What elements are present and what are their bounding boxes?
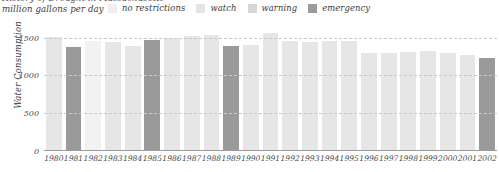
x-axis-tick-label: 1980 xyxy=(44,154,64,163)
x-axis-tick-label: 1989 xyxy=(221,154,241,163)
x-axis-tick-label: 1988 xyxy=(202,154,222,163)
legend-label: no restrictions xyxy=(122,3,185,13)
x-axis-tick-label: 1997 xyxy=(379,154,399,163)
x-axis-tick-labels: 1980198119821983198419851986198719881989… xyxy=(44,154,497,168)
x-axis-tick-label: 1999 xyxy=(418,154,438,163)
y-axis-tick-label: 1000 xyxy=(19,71,39,80)
legend-label: watch xyxy=(210,3,236,13)
bar xyxy=(105,42,121,151)
legend-swatch-icon xyxy=(308,4,317,13)
bar xyxy=(164,38,180,151)
bar xyxy=(361,53,377,151)
x-axis-tick-label: 1993 xyxy=(300,154,320,163)
bar xyxy=(460,55,476,151)
y-axis-title: Water Consumption xyxy=(13,10,23,120)
legend-label: warning xyxy=(262,3,298,13)
legend-swatch-icon xyxy=(248,4,257,13)
bar xyxy=(125,46,141,151)
x-axis-tick-label: 1983 xyxy=(103,154,123,163)
x-axis-tick-label: 1995 xyxy=(339,154,359,163)
y-axis-tick-label: 500 xyxy=(24,109,39,118)
gridline xyxy=(44,38,497,39)
x-axis-tick-label: 1996 xyxy=(359,154,379,163)
x-axis-tick-label: 1994 xyxy=(320,154,340,163)
bar xyxy=(144,40,160,151)
bar xyxy=(322,41,338,151)
x-axis-tick-label: 1987 xyxy=(182,154,202,163)
legend-item: emergency xyxy=(308,3,370,13)
bar xyxy=(400,52,416,151)
plot-area: 050010001500 xyxy=(44,30,497,151)
legend-item: watch xyxy=(196,3,236,13)
bar xyxy=(243,45,259,151)
legend-item: warning xyxy=(248,3,298,13)
x-axis-tick-label: 1981 xyxy=(64,154,84,163)
x-axis-tick-label: 1992 xyxy=(280,154,300,163)
gridline xyxy=(44,113,497,114)
bar xyxy=(184,36,200,151)
bar xyxy=(341,41,357,151)
bar xyxy=(302,42,318,151)
y-axis-tick-label: 0 xyxy=(34,147,39,156)
x-axis-tick-label: 2000 xyxy=(438,154,458,163)
x-axis-tick-label: 1986 xyxy=(162,154,182,163)
bar xyxy=(66,47,82,151)
bar-series xyxy=(44,30,497,151)
bar xyxy=(381,53,397,151)
x-axis-tick-label: 1982 xyxy=(83,154,103,163)
x-axis-tick-label: 1985 xyxy=(142,154,162,163)
x-axis-tick-label: 1990 xyxy=(241,154,261,163)
bar xyxy=(282,41,298,151)
gridline xyxy=(44,75,497,76)
bar xyxy=(204,35,220,151)
chart-legend: no restrictionswatchwarningemergency xyxy=(108,3,381,13)
bar xyxy=(223,46,239,151)
bar xyxy=(263,33,279,151)
x-axis-tick-label: 2002 xyxy=(477,154,497,163)
bar xyxy=(420,51,436,151)
legend-item: no restrictions xyxy=(108,3,185,13)
chart-header: History of Drought in Massachusetts mill… xyxy=(0,0,499,20)
y-axis-tick-label: 1500 xyxy=(19,33,39,42)
bar xyxy=(479,58,495,151)
x-axis-line xyxy=(44,150,497,151)
x-axis-tick-label: 1998 xyxy=(399,154,419,163)
bar xyxy=(46,37,62,151)
bar xyxy=(440,53,456,151)
x-axis-tick-label: 2001 xyxy=(458,154,478,163)
x-axis-tick-label: 1991 xyxy=(261,154,281,163)
chart-figure: History of Drought in Massachusetts mill… xyxy=(0,0,499,172)
x-axis-tick-label: 1984 xyxy=(123,154,143,163)
legend-swatch-icon xyxy=(196,4,205,13)
legend-swatch-icon xyxy=(108,4,117,13)
legend-label: emergency xyxy=(322,3,370,13)
bar xyxy=(85,41,101,151)
